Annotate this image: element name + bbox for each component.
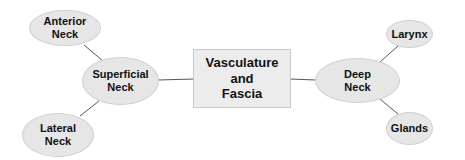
node-label: Anterior [44, 15, 87, 28]
node-label: Lateral [40, 122, 76, 135]
node-larynx: Larynx [386, 20, 433, 48]
center-label-line: Fascia [206, 86, 279, 102]
node-label: Neck [92, 81, 148, 94]
node-label: Neck [40, 135, 76, 148]
node-label: Neck [44, 28, 87, 41]
node-label: Superficial [92, 68, 148, 81]
center-label-line: and [206, 71, 279, 87]
node-superficial-neck: Superficial Neck [82, 57, 159, 105]
center-node-vasculature-and-fascia: Vasculature and Fascia [193, 49, 291, 108]
concept-map: Vasculature and Fascia Superficial Neck … [0, 0, 465, 160]
node-label: Neck [344, 81, 371, 94]
node-label: Glands [391, 122, 428, 135]
center-label-line: Vasculature [206, 55, 279, 71]
node-anterior-neck: Anterior Neck [29, 10, 101, 46]
node-label: Larynx [391, 28, 427, 41]
node-glands: Glands [386, 112, 433, 145]
node-deep-neck: Deep Neck [315, 58, 400, 103]
node-label: Deep [344, 68, 371, 81]
node-lateral-neck: Lateral Neck [22, 113, 94, 157]
